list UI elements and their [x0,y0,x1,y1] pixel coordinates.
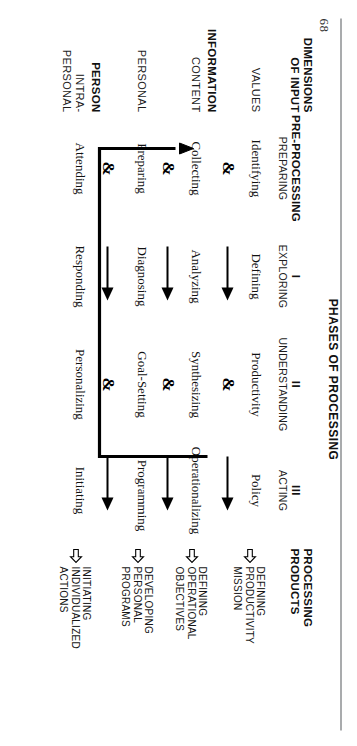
header-phase-iii-roman: III [288,440,301,540]
product-personal-text: DEVELOPING PERSONAL PROGRAMS [119,566,154,634]
header-pre-processing-caps: PREPARING [275,112,288,224]
hollow-right-arrow-icon [65,548,84,563]
dimension-minor-personal: PERSONAL [135,8,148,112]
cell-values-exploring: Defining [247,224,263,328]
product-content-text: DEFINING OPERATIONAL OBJECTIVES [173,566,208,639]
cell-intra-personal-pre-processing: Attending [71,112,87,224]
product-intra-personal-line1: INITIATING [80,566,92,648]
header-phase-ii-caps: UNDERSTANDING [275,328,288,440]
ampersand-glyph: & [97,158,117,178]
product-personal: DEVELOPING PERSONAL PROGRAMS [119,548,153,740]
ampersand-glyph: & [217,374,237,394]
header-phase-i-caps: EXPLORING [275,224,288,328]
row-label-information: INFORMATION [205,0,217,112]
dimension-minor-content: CONTENT [189,8,202,112]
ampersand-glyph: & [97,374,117,394]
header-phase-iii-caps: ACTING [275,440,288,540]
dimension-major-person: PERSON [89,0,101,112]
solid-right-arrow-icon [221,456,233,510]
product-values-text: DEFINING PRODUCTIVITY MISSION [231,566,266,643]
dimension-minor-intra-personal-line2: PERSONAL [60,8,73,112]
page-rotation-stage: 68 PHASES OF PROCESSING DIMENSIONS OF IN… [0,0,357,746]
solid-right-arrow-icon [101,456,113,510]
product-personal-line1: DEVELOPING [142,566,154,634]
row-label-intra-personal: INTRA- PERSONAL [60,8,85,112]
dimensions-header-line1: DIMENSIONS [300,8,313,112]
product-intra-personal-text: INITIATING INDIVIDUALIZED ACTIONS [57,566,92,648]
cell-values-understanding: Productivity [247,328,263,440]
page-number: 68 [315,18,331,32]
book-page: 68 PHASES OF PROCESSING DIMENSIONS OF IN… [0,0,357,746]
product-personal-line3: PROGRAMS [119,566,131,634]
cell-values-pre-processing: Identifying [247,112,263,224]
solid-right-arrow-icon [101,246,113,300]
hollow-right-arrow-icon [239,548,258,563]
dimensions-header-line2: OF INPUT [287,8,300,112]
product-values-line3: MISSION [231,566,243,643]
header-processing-products: PROCESSING PRODUCTS [267,548,313,698]
row-label-personal: PERSONAL [135,8,148,112]
product-content: DEFINING OPERATIONAL OBJECTIVES [173,548,207,740]
product-content-line1: DEFINING [196,566,208,639]
dimension-major-information: INFORMATION [205,0,217,112]
cell-values-acting: Policy [247,440,263,540]
dimension-minor-intra-personal-line1: INTRA- [73,8,86,112]
header-pre-processing-strong: PRE-PROCESSING [288,112,301,224]
column-dimensions: DIMENSIONS OF INPUT [13,8,313,112]
ampersand-glyph: & [217,158,237,178]
header-phase-ii-roman: II [288,328,301,440]
phases-of-processing-figure: PHASES OF PROCESSING DIMENSIONS OF INPUT… [13,0,313,746]
product-content-line2: OPERATIONAL [184,566,196,639]
products-header-line2: PRODUCTS [287,548,300,698]
figure-title: PHASES OF PROCESSING [325,214,339,544]
product-intra-personal-line3: ACTIONS [57,566,69,648]
product-values-line2: PRODUCTIVITY [242,566,254,643]
dimension-minor-values: VALUES [249,8,262,112]
product-content-line3: OBJECTIVES [173,566,185,639]
product-values: DEFINING PRODUCTIVITY MISSION [231,548,265,740]
cell-intra-personal-acting: Initiating [71,440,87,540]
product-personal-line2: PERSONAL [130,566,142,634]
header-phase-i-roman: I [288,224,301,328]
row-label-content: CONTENT [189,8,202,112]
page-top-rule [340,18,341,730]
cell-intra-personal-understanding: Personalizing [71,328,87,440]
row-label-person: PERSON [89,0,101,112]
product-values-line1: DEFINING [254,566,266,643]
hollow-right-arrow-icon [181,548,200,563]
dimensions-of-input-header: DIMENSIONS OF INPUT [267,8,313,112]
product-intra-personal: INITIATING INDIVIDUALIZED ACTIONS [57,548,91,740]
cell-intra-personal-exploring: Responding [71,224,87,328]
product-intra-personal-line2: INDIVIDUALIZED [68,566,80,648]
hollow-right-arrow-icon [127,548,146,563]
products-header-line1: PROCESSING [300,548,313,698]
row-label-values: VALUES [249,8,262,112]
solid-right-arrow-icon [221,246,233,300]
